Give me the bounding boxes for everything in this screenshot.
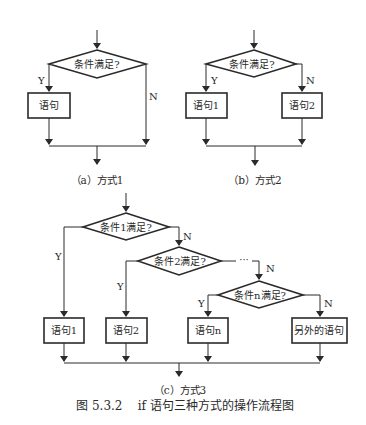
- condition1-yes-label: Y: [54, 251, 62, 262]
- no-label: N: [306, 75, 315, 86]
- condition-n-no-line: [303, 295, 320, 316]
- condition-text: 条件满足?: [229, 58, 274, 70]
- condition2-yes-line: [126, 261, 138, 316]
- condition1-no-label: N: [183, 231, 192, 242]
- statement-n-text: 语句n: [195, 324, 222, 336]
- condition1-yes-line: [64, 227, 83, 316]
- ellipsis: ···: [239, 254, 249, 265]
- condition-n-no-label: N: [324, 298, 333, 309]
- diagram-b: 条件满足? Y 语句1 N 语句2 （b）方式2: [186, 30, 322, 186]
- caption-a: （a）方式1: [71, 174, 124, 186]
- statement-text: 语句: [39, 99, 59, 111]
- condition-text: 条件满足?: [74, 58, 119, 70]
- no-branch-line: [296, 64, 302, 91]
- condition-n-text: 条件n满足?: [234, 289, 286, 301]
- diagram-a: 条件满足? Y 语句 N （a）方式1: [28, 30, 158, 186]
- flowchart-figure: 条件满足? Y 语句 N （a）方式1 条件满足? Y 语句1 N 语句2: [0, 0, 366, 425]
- statement1-text: 语句1: [51, 324, 77, 336]
- statement-else-text: 另外的语句: [294, 324, 344, 336]
- condition1-no-line: [169, 227, 179, 245]
- yes-label: Y: [210, 75, 218, 86]
- caption-b: （b）方式2: [228, 174, 281, 186]
- statement1-text: 语句1: [193, 99, 219, 111]
- figure-title: 图 5.3.2 if 语句三种方式的操作流程图: [76, 398, 294, 413]
- diagram-c: 条件1满足? Y N 条件2满足? Y ··· N 条件n满足? Y N 语句1…: [44, 193, 347, 396]
- condition-n-yes-line: [208, 295, 218, 316]
- statement2-text: 语句2: [289, 99, 315, 111]
- caption-c: （c）方式3: [154, 384, 207, 396]
- yes-label: Y: [37, 75, 45, 86]
- condition2-no-label: N: [266, 263, 275, 274]
- no-label: N: [149, 91, 158, 102]
- condition2-text: 条件2满足?: [154, 255, 206, 267]
- statement2-text: 语句2: [113, 324, 139, 336]
- condition2-continue-line: [252, 261, 259, 279]
- condition2-yes-label: Y: [116, 281, 124, 292]
- condition-n-yes-label: Y: [197, 298, 205, 309]
- condition1-text: 条件1满足?: [100, 221, 152, 233]
